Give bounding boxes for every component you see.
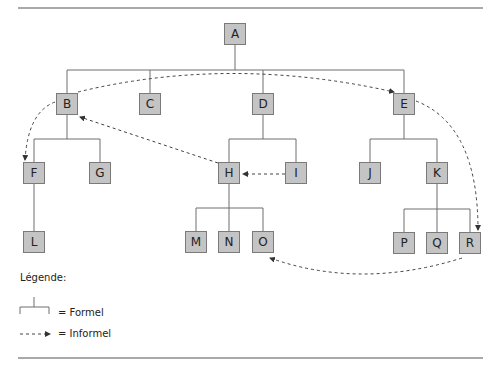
node-d: D — [252, 93, 274, 115]
legend-title: Légende: — [20, 272, 66, 283]
node-a: A — [224, 23, 246, 45]
legend-formal-label: = Formel — [58, 307, 104, 318]
node-r: R — [459, 232, 481, 254]
node-l: L — [23, 231, 45, 253]
node-j: J — [359, 162, 381, 184]
node-i: I — [285, 162, 307, 184]
node-g: G — [89, 162, 111, 184]
node-e: E — [393, 93, 415, 115]
node-p: P — [393, 232, 415, 254]
node-b: B — [56, 93, 78, 115]
legend-formal-symbol — [20, 297, 49, 314]
node-k: K — [426, 162, 448, 184]
node-c: C — [139, 93, 161, 115]
node-n: N — [218, 231, 240, 253]
node-o: O — [252, 231, 274, 253]
node-h: H — [218, 162, 240, 184]
node-f: F — [23, 162, 45, 184]
legend-informal-label: = Informel — [58, 328, 111, 339]
node-m: M — [185, 231, 207, 253]
formal-lines — [34, 45, 470, 232]
node-q: Q — [426, 232, 448, 254]
